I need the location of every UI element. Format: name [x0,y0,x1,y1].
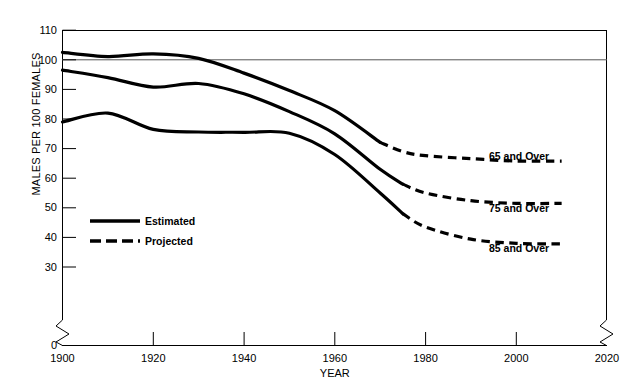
x-tick-label-1960: 1960 [323,352,347,364]
y-axis-title: MALES PER 100 FEMALES [30,44,42,204]
legend-label-estimated: Estimated [145,215,195,227]
chart-background [0,0,636,386]
series-label-75-and-over: 75 and Over [489,202,549,214]
x-tick-label-1940: 1940 [232,352,256,364]
x-tick-label-1900: 1900 [50,352,74,364]
y-tick-label-30: 30 [45,261,57,273]
chart-figure: 110 100 90 80 70 60 50 40 30 0 1900 1920… [0,0,636,386]
series-label-85-and-over: 85 and Over [489,242,549,254]
y-tick-label-80: 80 [45,113,57,125]
x-tick-label-1980: 1980 [413,352,437,364]
y-tick-label-0: 0 [51,339,57,351]
legend-label-projected: Projected [145,235,193,247]
series-label-65-and-over: 65 and Over [489,150,549,162]
males-per-100-females-line-chart: 110 100 90 80 70 60 50 40 30 0 1900 1920… [0,0,636,386]
y-tick-label-90: 90 [45,83,57,95]
x-tick-label-2000: 2000 [504,352,528,364]
x-axis-title: YEAR [320,367,350,379]
y-tick-label-40: 40 [45,231,57,243]
x-tick-label-1920: 1920 [141,352,165,364]
x-tick-label-2020: 2020 [595,352,619,364]
y-tick-label-110: 110 [39,24,57,36]
y-tick-label-60: 60 [45,172,57,184]
y-tick-label-70: 70 [45,142,57,154]
y-tick-label-50: 50 [45,201,57,213]
